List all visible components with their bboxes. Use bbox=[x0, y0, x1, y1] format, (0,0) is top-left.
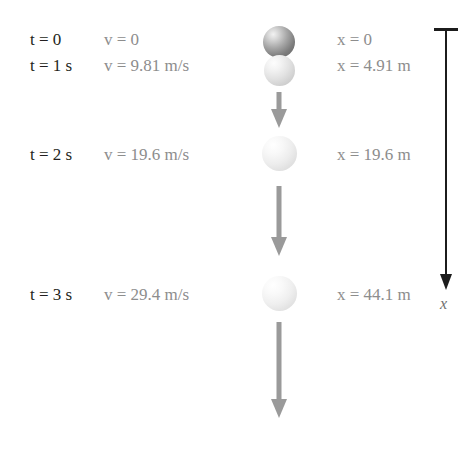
x-axis-shaft bbox=[445, 28, 447, 274]
time-label-row-0: t = 0 bbox=[30, 31, 61, 48]
arrow-head bbox=[271, 399, 287, 418]
velocity-label-row-1: v = 9.81 m/s bbox=[104, 57, 189, 74]
arrow-head bbox=[271, 109, 287, 128]
velocity-arrow-2 bbox=[263, 186, 295, 256]
x-axis-arrow-head bbox=[440, 274, 452, 290]
velocity-label-row-2: v = 19.6 m/s bbox=[104, 146, 189, 163]
ball-position-3 bbox=[262, 276, 297, 311]
time-label-row-2: t = 2 s bbox=[30, 146, 72, 163]
arrow-shaft bbox=[277, 322, 282, 401]
free-fall-diagram: t = 0 v = 0 x = 0 t = 1 s v = 9.81 m/s x… bbox=[0, 0, 471, 468]
ball-position-1 bbox=[264, 55, 295, 86]
arrow-shaft bbox=[277, 186, 282, 239]
velocity-label-row-3: v = 29.4 m/s bbox=[104, 286, 189, 303]
position-label-row-3: x = 44.1 m bbox=[337, 286, 411, 303]
position-label-row-1: x = 4.91 m bbox=[337, 57, 411, 74]
arrow-head bbox=[271, 237, 287, 256]
ball-position-2 bbox=[262, 136, 297, 171]
position-label-row-0: x = 0 bbox=[337, 31, 372, 48]
time-label-row-3: t = 3 s bbox=[30, 286, 72, 303]
velocity-arrow-3 bbox=[263, 322, 295, 418]
velocity-label-row-0: v = 0 bbox=[104, 31, 139, 48]
velocity-arrow-1 bbox=[263, 92, 295, 128]
ball-position-0 bbox=[263, 26, 295, 58]
position-label-row-2: x = 19.6 m bbox=[337, 146, 411, 163]
x-axis-label: x bbox=[440, 296, 447, 312]
x-axis bbox=[432, 28, 460, 290]
time-label-row-1: t = 1 s bbox=[30, 57, 72, 74]
